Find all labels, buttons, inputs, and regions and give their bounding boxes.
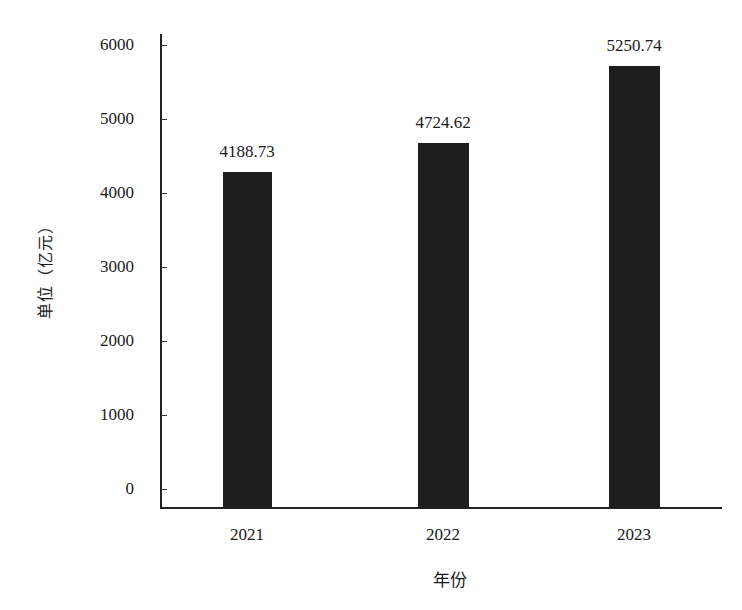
x-tick-label: 2023: [594, 525, 674, 545]
y-tick: [161, 341, 167, 342]
y-tick: [161, 45, 167, 46]
x-axis-title: 年份: [420, 566, 480, 591]
x-tick-label: 2021: [207, 525, 287, 545]
y-tick-label: 3000: [74, 257, 134, 277]
y-tick-label: 2000: [74, 331, 134, 351]
bar-2022: [418, 143, 469, 507]
bar-2021: [223, 172, 272, 507]
y-tick-label: 0: [74, 479, 134, 499]
bar-value-label: 4188.73: [197, 142, 297, 162]
x-axis-line: [160, 507, 722, 509]
bar-value-label: 4724.62: [393, 113, 493, 133]
x-tick-label: 2022: [403, 525, 483, 545]
y-tick: [161, 489, 167, 490]
y-tick-label: 1000: [74, 405, 134, 425]
y-tick-label: 6000: [74, 35, 134, 55]
y-tick-label: 5000: [74, 109, 134, 129]
y-tick: [161, 415, 167, 416]
bar-chart: 单位（亿元） 0 1000 2000 3000 4000 5000 6000 4…: [0, 0, 742, 610]
y-tick: [161, 267, 167, 268]
y-tick: [161, 119, 167, 120]
bar-2023: [609, 66, 660, 507]
y-tick-label: 4000: [74, 183, 134, 203]
y-axis-line: [160, 34, 162, 509]
y-tick: [161, 193, 167, 194]
bar-value-label: 5250.74: [584, 36, 684, 56]
y-axis-title: 单位（亿元）: [32, 217, 56, 319]
